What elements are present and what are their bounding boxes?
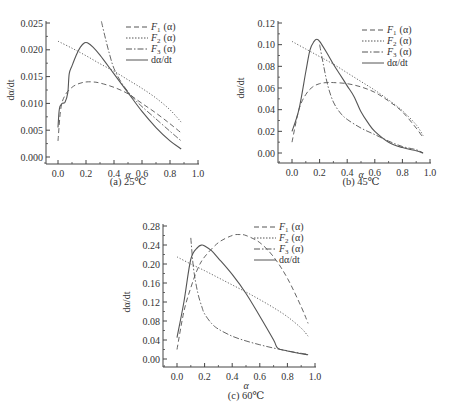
chart-panel-a-25c: 0.0000.0050.0100.0150.0200.0250.00.20.40…	[0, 0, 226, 200]
y-tick-label: 0.00	[258, 148, 276, 159]
axes: 0.0000.0050.0100.0150.0200.0250.00.20.40…	[21, 18, 205, 180]
y-axis-label: dα/dt	[235, 77, 246, 98]
x-tick-label: 1.0	[309, 371, 322, 382]
legend-item: dα/dt	[151, 54, 172, 65]
chart-panel-c-60c: 0.000.040.080.120.160.200.240.280.00.20.…	[110, 200, 350, 419]
y-tick-label: 0.08	[143, 316, 161, 327]
y-tick-label: 0.025	[21, 18, 44, 29]
y-tick-label: 0.16	[143, 278, 161, 289]
y-tick-label: 0.010	[21, 98, 44, 109]
y-tick-label: 0.08	[258, 61, 276, 72]
y-tick-label: 0.005	[21, 125, 44, 136]
y-tick-label: 0.24	[143, 240, 161, 251]
x-tick-label: 0.0	[171, 371, 184, 382]
y-axis-label: dα/dt	[121, 291, 132, 312]
y-tick-label: 0.12	[258, 18, 276, 29]
x-tick-label: 1.0	[192, 168, 205, 179]
legend: F1(α)F2(α)F3(α)dα/dt	[126, 21, 176, 65]
y-tick-label: 0.20	[143, 259, 161, 270]
x-tick-label: 0.4	[226, 371, 239, 382]
y-tick-label: 0.04	[143, 335, 161, 346]
x-tick-label: 0.2	[80, 168, 93, 179]
y-axis-label: dα/dt	[5, 79, 16, 100]
chart-svg: 0.000.020.040.060.080.100.120.00.20.40.6…	[226, 0, 452, 200]
x-tick-label: 0.2	[313, 167, 326, 178]
x-tick-label: 0.0	[286, 167, 299, 178]
legend-item: dα/dt	[387, 57, 408, 68]
y-tick-label: 0.12	[143, 297, 161, 308]
y-tick-label: 0.015	[21, 71, 44, 82]
x-tick-label: 0.6	[254, 371, 266, 382]
x-tick-label: 0.8	[164, 168, 177, 179]
y-tick-label: 0.28	[143, 221, 161, 232]
x-tick-label: 1.0	[424, 167, 437, 178]
chart-svg: 0.000.040.080.120.160.200.240.280.00.20.…	[110, 200, 350, 419]
chart-caption: (c) 60℃	[228, 390, 265, 402]
y-tick-label: 0.00	[143, 354, 161, 365]
y-tick-label: 0.000	[21, 152, 44, 163]
chart-panel-b-45c: 0.000.020.040.060.080.100.120.00.20.40.6…	[226, 0, 452, 200]
x-tick-label: 0.8	[281, 371, 294, 382]
y-tick-label: 0.020	[21, 44, 44, 55]
legend: F1(α)F2(α)F3(α)dα/dt	[362, 24, 412, 68]
x-tick-label: 0.8	[396, 167, 409, 178]
chart-caption: (a) 25℃	[110, 176, 147, 188]
y-tick-label: 0.06	[258, 83, 276, 94]
y-tick-label: 0.10	[258, 39, 276, 50]
series-dotted	[177, 257, 308, 336]
series-dashed	[58, 82, 181, 141]
legend-item: dα/dt	[279, 254, 300, 265]
chart-caption: (b) 45℃	[342, 176, 379, 188]
x-tick-label: 0.0	[52, 168, 65, 179]
legend: F1(α)F2(α)F3(α)dα/dt	[254, 221, 304, 265]
chart-svg: 0.0000.0050.0100.0150.0200.0250.00.20.40…	[0, 0, 226, 200]
y-tick-label: 0.04	[258, 104, 276, 115]
x-tick-label: 0.2	[198, 371, 211, 382]
y-tick-label: 0.02	[258, 126, 276, 137]
